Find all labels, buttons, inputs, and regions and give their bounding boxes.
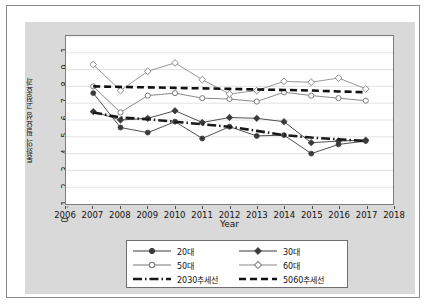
legend-row: 50대 60대 bbox=[131, 258, 343, 272]
legend-label: 2030추세선 bbox=[173, 274, 218, 285]
legend-label: 5060추세선 bbox=[279, 274, 324, 285]
legend-item-50dae[interactable]: 50대 bbox=[131, 258, 237, 272]
legend-row: 20대 30대 bbox=[131, 244, 343, 258]
x-tick-mark bbox=[367, 206, 368, 209]
data-point-marker bbox=[335, 75, 342, 82]
x-tick-mark bbox=[257, 206, 258, 209]
data-point-marker bbox=[254, 133, 259, 138]
legend-symbol-dash-dot bbox=[131, 273, 173, 285]
y-axis-title: 통화의 필요성 고정효과 bbox=[23, 35, 37, 205]
data-point-marker bbox=[200, 136, 205, 141]
data-point-marker bbox=[200, 96, 205, 101]
data-point-marker bbox=[281, 78, 288, 85]
x-tick-mark bbox=[230, 206, 231, 209]
legend-symbol-filled-circle bbox=[131, 245, 173, 257]
legend-symbol-filled-diamond bbox=[237, 245, 279, 257]
data-point-marker bbox=[362, 86, 369, 93]
data-point-marker bbox=[145, 130, 150, 135]
x-tick-mark bbox=[175, 206, 176, 209]
x-tick-mark bbox=[92, 206, 93, 209]
data-point-marker bbox=[118, 110, 123, 115]
y-axis: 0.1.2.3.4.5.6.7.8.91 bbox=[47, 35, 65, 205]
legend-label: 50대 bbox=[173, 260, 194, 271]
x-tick-mark bbox=[147, 206, 148, 209]
figure-border: 통화의 필요성 고정효과 0.1.2.3.4.5.6.7.8.91 200620… bbox=[6, 5, 420, 298]
data-point-marker bbox=[117, 117, 123, 123]
data-point-marker bbox=[309, 93, 314, 98]
data-point-marker bbox=[309, 151, 314, 156]
legend-item-20dae[interactable]: 20대 bbox=[131, 244, 237, 258]
x-tick-mark bbox=[65, 206, 66, 209]
x-tick-mark bbox=[394, 206, 395, 209]
legend-label: 30대 bbox=[279, 246, 300, 257]
x-axis-title: Year bbox=[65, 219, 394, 229]
legend-item-5060-trend[interactable]: 5060추세선 bbox=[237, 272, 343, 286]
legend-item-2030-trend[interactable]: 2030추세선 bbox=[131, 272, 237, 286]
series-line bbox=[93, 93, 366, 153]
plot-wrapper: 통화의 필요성 고정효과 0.1.2.3.4.5.6.7.8.91 200620… bbox=[25, 22, 415, 294]
data-point-marker bbox=[226, 114, 232, 120]
data-point-marker bbox=[254, 115, 260, 121]
x-tick-mark bbox=[284, 206, 285, 209]
legend-item-60dae[interactable]: 60대 bbox=[237, 258, 343, 272]
x-tick-mark bbox=[120, 206, 121, 209]
data-point-marker bbox=[199, 119, 205, 125]
data-point-marker bbox=[118, 125, 123, 130]
legend-label: 20대 bbox=[173, 246, 194, 257]
data-point-marker bbox=[172, 108, 178, 114]
chart-figure: 통화의 필요성 고정효과 0.1.2.3.4.5.6.7.8.91 200620… bbox=[0, 0, 428, 305]
data-point-marker bbox=[336, 96, 341, 101]
chart-legend: 20대 30대 50대 60대 bbox=[126, 240, 348, 288]
legend-symbol-hollow-diamond bbox=[237, 259, 279, 271]
legend-symbol-dashed bbox=[237, 273, 279, 285]
x-tick-mark bbox=[312, 206, 313, 209]
y-axis-title-text: 통화의 필요성 고정효과 bbox=[25, 78, 36, 163]
data-point-marker bbox=[226, 91, 233, 98]
legend-label: 60대 bbox=[279, 260, 300, 271]
data-point-marker bbox=[172, 91, 177, 96]
data-point-marker bbox=[308, 79, 315, 86]
plot-area bbox=[65, 35, 394, 205]
data-point-marker bbox=[199, 76, 206, 83]
legend-row: 2030추세선 5060추세선 bbox=[131, 272, 343, 286]
data-point-marker bbox=[254, 99, 259, 104]
legend-item-30dae[interactable]: 30대 bbox=[237, 244, 343, 258]
data-point-marker bbox=[282, 133, 287, 138]
data-point-marker bbox=[91, 91, 96, 96]
data-point-marker bbox=[172, 60, 179, 67]
legend-symbol-hollow-circle bbox=[131, 259, 173, 271]
data-series-layer bbox=[66, 36, 393, 204]
data-point-marker bbox=[145, 93, 150, 98]
data-point-marker bbox=[144, 68, 151, 75]
x-tick-mark bbox=[202, 206, 203, 209]
x-tick-mark bbox=[339, 206, 340, 209]
data-point-marker bbox=[363, 98, 368, 103]
